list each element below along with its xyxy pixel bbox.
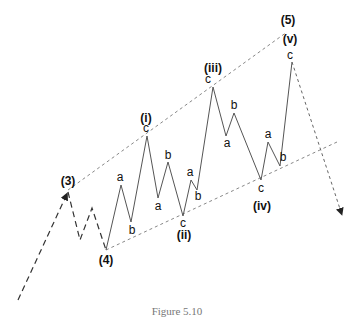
label-ii-c: c <box>180 217 186 229</box>
label-v-b: b <box>280 151 287 163</box>
upper-trendline <box>68 32 287 190</box>
wave-4-path <box>68 192 106 250</box>
label-iii-a: a <box>187 166 194 178</box>
label-wave-iv: (iv) <box>253 200 271 212</box>
label-wave-v: (v) <box>283 33 298 45</box>
label-ii-a: a <box>155 200 162 212</box>
label-iv-c: c <box>258 182 264 194</box>
label-v-c: c <box>287 49 293 61</box>
label-i-a: a <box>117 171 124 183</box>
label-iii-c: c <box>205 73 211 85</box>
reversal-arrow <box>292 62 341 212</box>
label-wave-5: (5) <box>281 14 296 26</box>
figure-caption: Figure 5.10 <box>152 305 203 317</box>
label-wave-4: (4) <box>99 254 114 266</box>
wave-5-path <box>106 62 292 250</box>
label-wave-3: (3) <box>61 175 76 187</box>
label-i-b: b <box>129 224 136 236</box>
label-iv-b: b <box>231 99 238 111</box>
label-v-a: a <box>265 128 272 140</box>
label-iv-a: a <box>224 137 231 149</box>
label-wave-ii: (ii) <box>177 229 192 241</box>
label-ii-b: b <box>165 149 172 161</box>
label-i-c: c <box>143 122 149 134</box>
wave-3-arrow <box>18 196 66 300</box>
label-iii-b: b <box>195 190 202 202</box>
lower-trendline <box>106 142 337 250</box>
